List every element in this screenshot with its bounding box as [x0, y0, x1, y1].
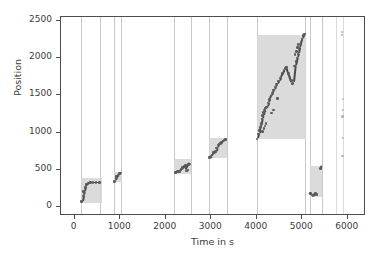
y-axis-tick-label: 500	[10, 163, 52, 173]
x-axis-tick-label: 0	[51, 221, 97, 231]
data-point	[259, 126, 262, 129]
x-axis-tick-label: 2000	[142, 221, 188, 231]
data-point	[265, 122, 268, 125]
data-point	[301, 38, 304, 41]
data-point	[92, 181, 95, 184]
data-point	[80, 200, 83, 203]
y-axis-tick	[56, 94, 60, 95]
data-point	[276, 97, 279, 100]
vertical-marker-line	[174, 17, 175, 214]
data-point	[98, 181, 101, 184]
data-point	[262, 111, 265, 114]
plot-area	[60, 16, 365, 215]
x-axis-tick	[119, 215, 120, 219]
x-axis-tick	[74, 215, 75, 219]
y-axis-tick	[56, 206, 60, 207]
data-point	[295, 50, 298, 53]
y-axis-tick-label: 1000	[10, 126, 52, 136]
data-point	[299, 43, 302, 46]
data-point	[281, 72, 284, 75]
y-axis-label: Position	[12, 33, 23, 123]
vertical-marker-line	[227, 17, 228, 214]
vertical-marker-line	[322, 17, 323, 214]
data-point	[265, 106, 268, 109]
data-point	[342, 137, 344, 139]
y-axis-tick-label: 0	[10, 200, 52, 210]
x-axis-tick	[256, 215, 257, 219]
data-point	[291, 82, 294, 85]
data-point	[271, 92, 274, 95]
x-axis-tick-label: 5000	[278, 221, 324, 231]
x-axis-label: Time in s	[60, 236, 365, 247]
x-axis-tick-label: 3000	[187, 221, 233, 231]
data-point	[316, 193, 319, 196]
data-point	[341, 155, 343, 157]
data-point	[214, 150, 217, 153]
data-point	[261, 130, 264, 133]
x-axis-tick-label: 1000	[96, 221, 142, 231]
data-point	[84, 186, 87, 189]
y-axis-tick	[56, 132, 60, 133]
figure-root: 0100020003000400050006000050010001500200…	[0, 0, 381, 261]
vertical-marker-line	[336, 17, 337, 214]
data-point	[224, 138, 227, 141]
y-axis-tick-label: 2500	[10, 14, 52, 24]
data-point	[113, 180, 116, 183]
x-axis-tick	[165, 215, 166, 219]
data-point	[296, 46, 299, 49]
data-point	[287, 72, 290, 75]
vertical-marker-line	[209, 17, 210, 214]
x-axis-tick	[210, 215, 211, 219]
x-axis-tick	[301, 215, 302, 219]
data-point	[268, 98, 271, 101]
vertical-marker-line	[121, 17, 122, 214]
data-point	[260, 122, 263, 125]
data-point	[341, 115, 343, 117]
x-axis-tick-label: 6000	[324, 221, 370, 231]
vertical-marker-line	[114, 17, 115, 214]
y-axis-tick	[56, 57, 60, 58]
vertical-marker-line	[191, 17, 192, 214]
y-axis-tick	[56, 169, 60, 170]
data-point	[261, 114, 264, 117]
x-axis-tick	[347, 215, 348, 219]
y-axis-tick	[56, 20, 60, 21]
x-axis-tick-label: 4000	[233, 221, 279, 231]
